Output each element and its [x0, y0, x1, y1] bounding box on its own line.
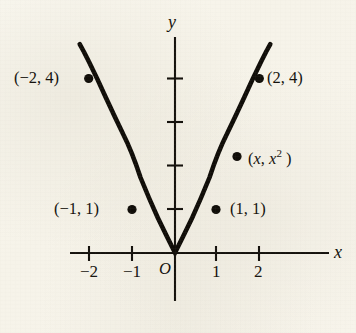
label-point-2-4: (2, 4)	[267, 70, 303, 87]
point-neg2-4-dot	[84, 74, 93, 83]
label-point-neg2-4: (−2, 4)	[14, 70, 59, 87]
point-2-4-dot	[255, 74, 264, 83]
origin-label: O	[159, 261, 171, 278]
point-neg1-1-dot	[127, 205, 136, 214]
generic-close-paren: )	[282, 149, 292, 168]
x-axis-label: x	[334, 243, 342, 261]
x-tick-label-2: 2	[254, 263, 263, 280]
y-axis-label: y	[168, 13, 176, 31]
point-generic-dot	[232, 152, 241, 161]
generic-x-first: x	[254, 149, 261, 168]
label-point-neg1-1: (−1, 1)	[54, 201, 99, 218]
graph-canvas	[0, 0, 356, 333]
x-tick-label-neg1: −1	[123, 263, 141, 280]
generic-comma: ,	[261, 149, 269, 168]
x-tick-label-1: 1	[212, 263, 221, 280]
label-point-generic: (x, x2 )	[248, 148, 292, 167]
x-tick-label-neg2: −2	[80, 263, 98, 280]
label-point-1-1: (1, 1)	[230, 201, 266, 218]
parabola-figure: (−2, 4) (2, 4) (−1, 1) (1, 1) (x, x2 ) −…	[0, 0, 356, 333]
point-1-1-dot	[211, 205, 220, 214]
